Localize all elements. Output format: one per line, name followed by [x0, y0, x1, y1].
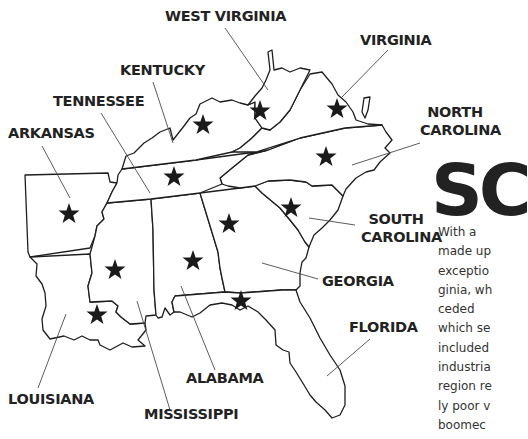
body-line: region re — [438, 377, 518, 396]
leader-west-virginia — [225, 28, 268, 90]
label-kentucky: KENTUCKY — [120, 61, 205, 79]
body-line: ly poor v — [438, 397, 518, 416]
label-south-carolina: SOUTH CAROLINA — [361, 210, 431, 246]
section-title: SC — [431, 150, 528, 230]
label-west-virginia: WEST VIRGINIA — [165, 7, 286, 25]
state-florida — [172, 290, 345, 418]
label-florida: FLORIDA — [349, 318, 418, 336]
label-south-carolina-line2: CAROLINA — [361, 228, 431, 246]
label-virginia: VIRGINIA — [360, 31, 431, 49]
body-line: made up — [438, 242, 518, 261]
body-line: exceptio — [438, 262, 518, 281]
body-line: ceded — [438, 300, 518, 319]
leader-mississippi — [137, 301, 170, 410]
label-north-carolina-line2: CAROLINA — [420, 121, 490, 139]
label-south-carolina-line1: SOUTH — [361, 210, 431, 228]
body-line: included — [438, 339, 518, 358]
body-line: With a — [438, 223, 518, 242]
body-line: which se — [438, 319, 518, 338]
body-line: industria — [438, 358, 518, 377]
body-text: With a made up exceptio ginia, wh ceded … — [438, 223, 518, 435]
label-louisiana: LOUISIANA — [8, 390, 94, 408]
leader-virginia — [342, 50, 388, 97]
label-north-carolina-line1: NORTH — [420, 103, 490, 121]
label-arkansas: ARKANSAS — [8, 124, 95, 142]
body-line: boomec — [438, 416, 518, 435]
label-tennessee: TENNESSEE — [53, 92, 144, 110]
label-alabama: ALABAMA — [186, 369, 264, 387]
label-mississippi: MISSISSIPPI — [144, 405, 238, 423]
leader-florida — [327, 339, 370, 376]
body-line: ginia, wh — [438, 281, 518, 300]
label-north-carolina: NORTH CAROLINA — [420, 103, 490, 139]
state-delmarva-peninsula — [362, 97, 370, 118]
label-georgia: GEORGIA — [322, 272, 394, 290]
